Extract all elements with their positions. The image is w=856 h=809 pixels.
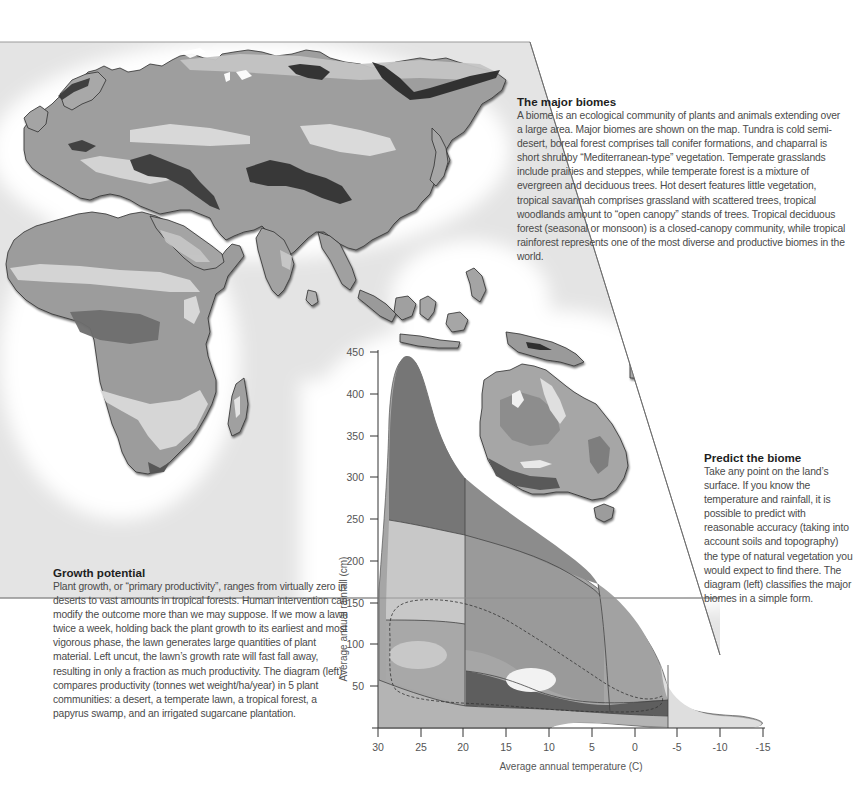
growth-potential-body: Plant growth, or “primary productivity”,… [53,580,353,721]
predict-biome-heading: Predict the biome [704,451,854,465]
x-tick-5: 5 [589,741,595,753]
x-tick-15: 15 [500,741,512,753]
predict-biome-section: Predict the biome Take any point on the … [704,451,854,606]
y-tick-400: 400 [346,388,364,400]
x-tick-minus-5: -5 [672,741,681,753]
y-tick-50: 50 [352,680,364,692]
x-tick-minus-10: -10 [712,741,727,753]
x-tick-10: 10 [543,741,555,753]
y-tick-300: 300 [346,471,364,483]
x-axis [372,728,765,737]
major-biomes-body: A biome is an ecological community of pl… [517,109,847,264]
x-tick-0: 0 [632,741,638,753]
x-tick-25: 25 [415,741,427,753]
x-tick-labels: 30 25 20 15 10 5 0 -5 -10 -15 [372,741,771,753]
y-tick-250: 250 [346,513,364,525]
y-tick-450: 450 [346,346,364,358]
x-tick-minus-15: -15 [755,741,770,753]
x-axis-title: Average annual temperature (C) [499,761,642,772]
major-biomes-section: The major biomes A biome is an ecologica… [517,95,847,264]
ellipse-tropical [389,641,447,669]
major-biomes-heading: The major biomes [517,95,847,109]
x-tick-30: 30 [372,741,384,753]
y-tick-350: 350 [346,430,364,442]
predict-biome-body: Take any point on the land’s surface. If… [704,465,854,606]
growth-potential-section: Growth potential Plant growth, or “prima… [53,566,353,721]
page: 450 400 350 300 250 200 150 100 50 30 25… [0,0,856,809]
x-tick-20: 20 [457,741,469,753]
growth-potential-heading: Growth potential [53,566,353,580]
region-tropical-seasonal-forest [386,520,465,624]
